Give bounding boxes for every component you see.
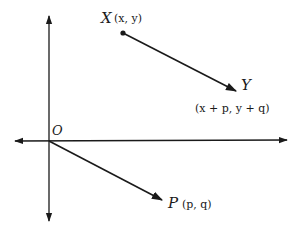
point-y-coords: (x + p, y + q) <box>195 102 270 115</box>
point-x-coords: (x, y) <box>114 12 142 25</box>
point-p-label: P <box>167 194 179 212</box>
point-y-label: Y <box>241 76 253 94</box>
vector-op <box>49 141 162 200</box>
point-p-coords: (p, q) <box>182 198 212 211</box>
vector-diagram: X (x, y) Y (x + p, y + q) O P (p, q) <box>0 0 302 235</box>
x-axis <box>15 140 287 141</box>
origin-label: O <box>52 123 63 138</box>
point-x-label: X <box>100 9 113 27</box>
vector-xy <box>123 33 236 91</box>
